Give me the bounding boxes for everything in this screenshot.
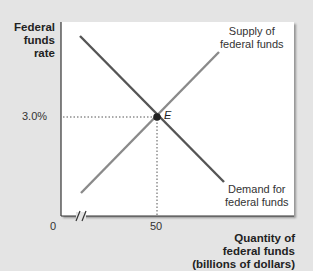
supply-label-line: Supply of <box>220 25 284 38</box>
supply-label: Supply of federal funds <box>220 25 284 51</box>
demand-label-line: federal funds <box>225 196 289 209</box>
demand-label: Demand for federal funds <box>225 183 289 209</box>
equilibrium-label: E <box>164 109 171 121</box>
y-axis-label-line: rate <box>14 47 55 60</box>
demand-curve <box>80 36 224 182</box>
y-tick-label: 3.0% <box>22 110 47 122</box>
supply-label-line: federal funds <box>220 38 284 51</box>
x-axis-label-line: (billions of dollars) <box>192 258 295 271</box>
axis-break-icon <box>76 211 86 221</box>
x-axis-label-line: Quantity of <box>192 232 295 245</box>
equilibrium-point <box>153 113 161 121</box>
y-axis-label-line: funds <box>14 34 55 47</box>
x-axis-label-line: federal funds <box>192 245 295 258</box>
supply-curve <box>81 52 219 193</box>
y-axis-label: Federal funds rate <box>14 21 55 60</box>
x-tick-origin: 0 <box>50 220 56 232</box>
x-tick-label: 50 <box>150 220 162 232</box>
y-axis-label-line: Federal <box>14 21 55 34</box>
demand-label-line: Demand for <box>225 183 289 196</box>
x-axis-label: Quantity of federal funds (billions of d… <box>192 232 295 271</box>
